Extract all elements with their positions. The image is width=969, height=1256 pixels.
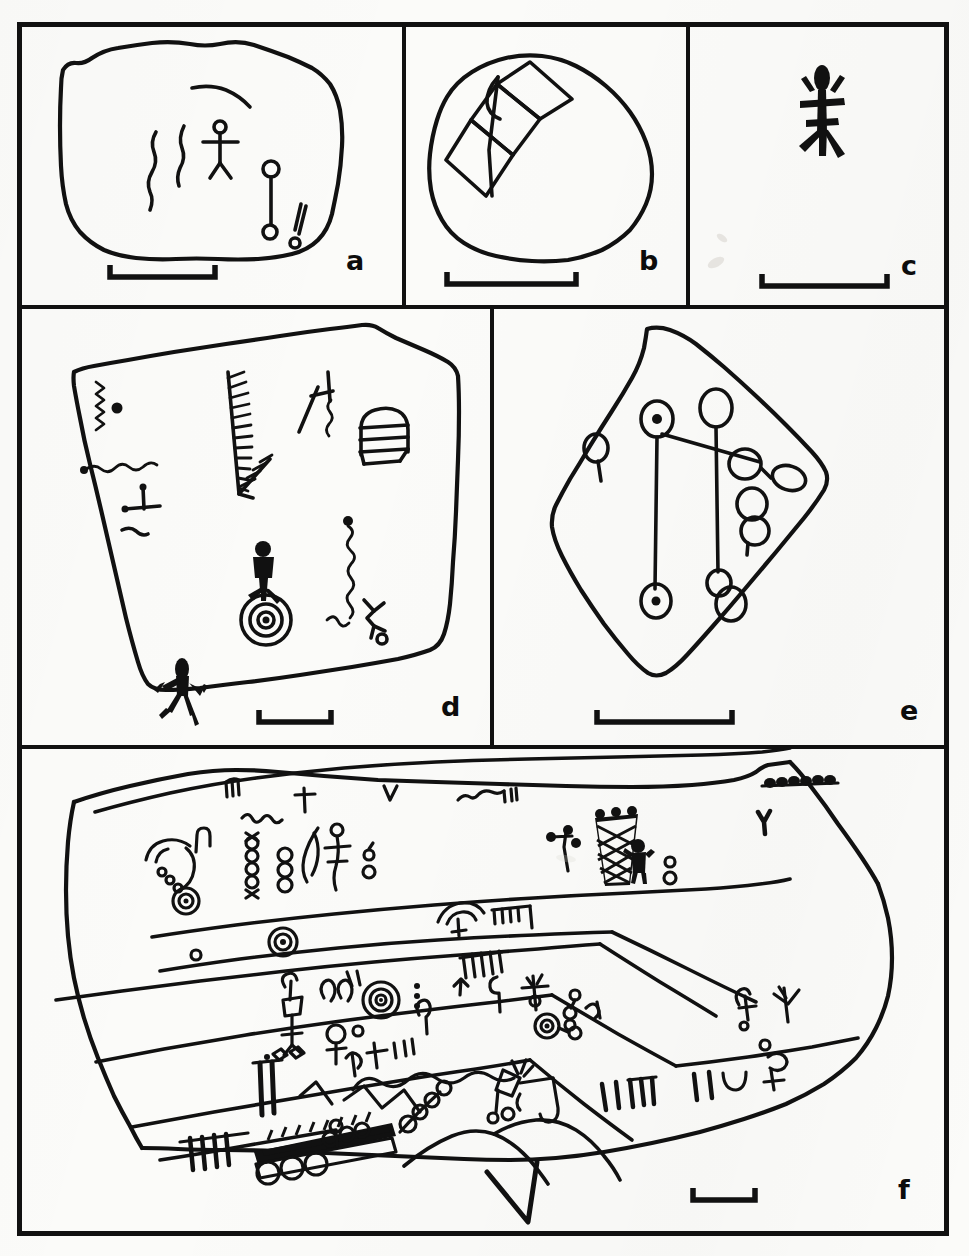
panel-label-b: b [639, 247, 658, 274]
panel-label-c: c [901, 252, 917, 279]
concentric-circles-d [241, 595, 291, 645]
panel-label-e: e [900, 697, 918, 724]
petroglyph-plate-drawing: .ink { fill:none; stroke:#111; stroke-li… [0, 0, 969, 1256]
panel-label-f: f [898, 1176, 910, 1203]
panel-label-a: a [346, 247, 364, 274]
panel-label-d: d [441, 693, 460, 720]
figure-plate: .ink { fill:none; stroke:#111; stroke-li… [0, 0, 969, 1256]
